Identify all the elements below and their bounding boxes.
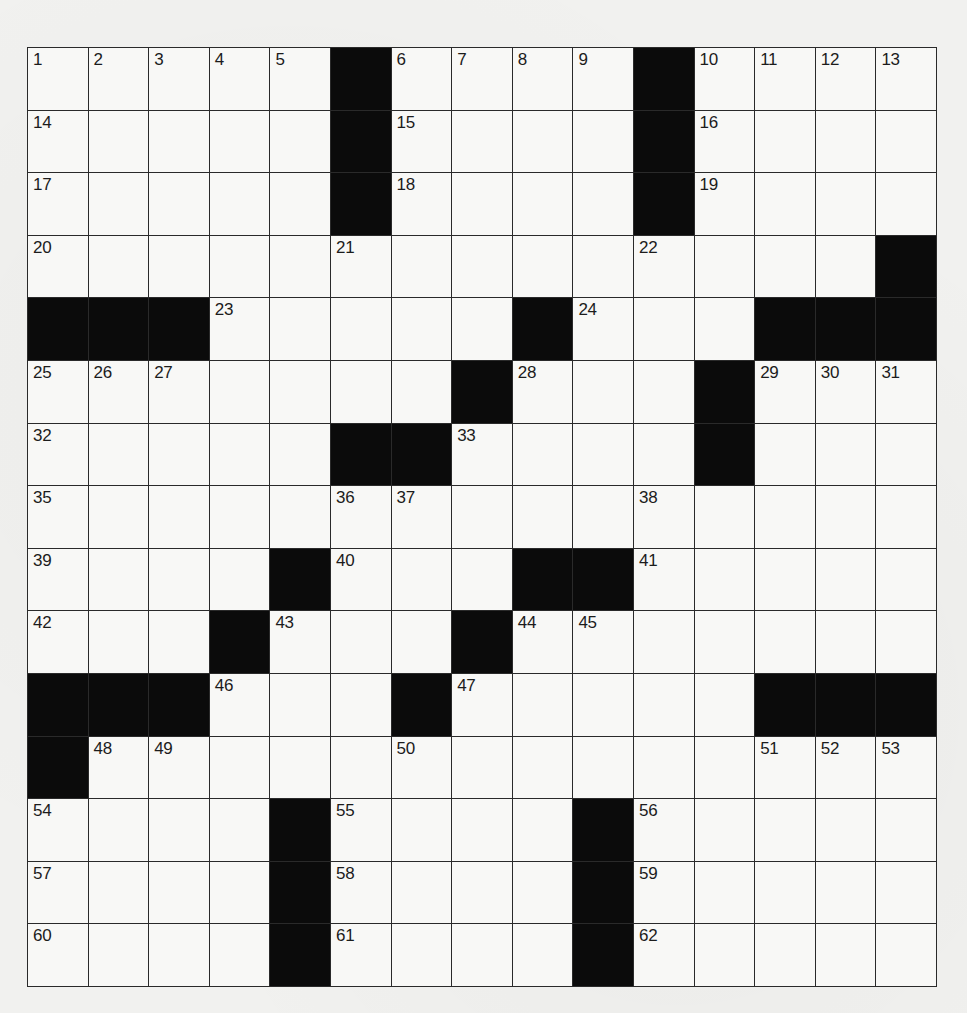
answer-cell[interactable]: 16: [695, 111, 755, 173]
answer-cell[interactable]: [755, 611, 815, 673]
answer-cell[interactable]: [89, 111, 149, 173]
answer-cell[interactable]: [573, 361, 633, 423]
answer-cell[interactable]: [452, 799, 512, 861]
answer-cell[interactable]: [210, 924, 270, 986]
answer-cell[interactable]: 18: [392, 173, 452, 235]
answer-cell[interactable]: [513, 924, 573, 986]
answer-cell[interactable]: [392, 799, 452, 861]
answer-cell[interactable]: 59: [634, 862, 694, 924]
answer-cell[interactable]: [573, 111, 633, 173]
answer-cell[interactable]: [331, 611, 391, 673]
answer-cell[interactable]: [513, 111, 573, 173]
answer-cell[interactable]: 56: [634, 799, 694, 861]
answer-cell[interactable]: [755, 236, 815, 298]
answer-cell[interactable]: [513, 236, 573, 298]
answer-cell[interactable]: [876, 486, 936, 548]
answer-cell[interactable]: 36: [331, 486, 391, 548]
answer-cell[interactable]: [755, 424, 815, 486]
answer-cell[interactable]: 57: [28, 862, 88, 924]
answer-cell[interactable]: [331, 674, 391, 736]
answer-cell[interactable]: [876, 924, 936, 986]
answer-cell[interactable]: [149, 862, 209, 924]
answer-cell[interactable]: [452, 173, 512, 235]
answer-cell[interactable]: 11: [755, 48, 815, 110]
answer-cell[interactable]: 37: [392, 486, 452, 548]
answer-cell[interactable]: [573, 674, 633, 736]
answer-cell[interactable]: [392, 924, 452, 986]
answer-cell[interactable]: [513, 737, 573, 799]
answer-cell[interactable]: [755, 924, 815, 986]
answer-cell[interactable]: [149, 111, 209, 173]
answer-cell[interactable]: [392, 361, 452, 423]
answer-cell[interactable]: [513, 674, 573, 736]
answer-cell[interactable]: [89, 611, 149, 673]
answer-cell[interactable]: [876, 799, 936, 861]
answer-cell[interactable]: [149, 173, 209, 235]
answer-cell[interactable]: [89, 173, 149, 235]
answer-cell[interactable]: [876, 111, 936, 173]
answer-cell[interactable]: [755, 862, 815, 924]
answer-cell[interactable]: [210, 737, 270, 799]
answer-cell[interactable]: [876, 173, 936, 235]
answer-cell[interactable]: 29: [755, 361, 815, 423]
answer-cell[interactable]: 49: [149, 737, 209, 799]
answer-cell[interactable]: [331, 298, 391, 360]
answer-cell[interactable]: [149, 611, 209, 673]
answer-cell[interactable]: [452, 549, 512, 611]
answer-cell[interactable]: [149, 924, 209, 986]
answer-cell[interactable]: [210, 236, 270, 298]
answer-cell[interactable]: [270, 298, 330, 360]
answer-cell[interactable]: 53: [876, 737, 936, 799]
answer-cell[interactable]: [573, 424, 633, 486]
answer-cell[interactable]: [392, 298, 452, 360]
answer-cell[interactable]: 38: [634, 486, 694, 548]
answer-cell[interactable]: [89, 799, 149, 861]
answer-cell[interactable]: [816, 424, 876, 486]
answer-cell[interactable]: [513, 424, 573, 486]
answer-cell[interactable]: 61: [331, 924, 391, 986]
answer-cell[interactable]: 20: [28, 236, 88, 298]
answer-cell[interactable]: [149, 424, 209, 486]
answer-cell[interactable]: [149, 549, 209, 611]
answer-cell[interactable]: 17: [28, 173, 88, 235]
answer-cell[interactable]: [452, 298, 512, 360]
answer-cell[interactable]: 40: [331, 549, 391, 611]
answer-cell[interactable]: [331, 737, 391, 799]
answer-cell[interactable]: [695, 549, 755, 611]
answer-cell[interactable]: [270, 111, 330, 173]
answer-cell[interactable]: 51: [755, 737, 815, 799]
answer-cell[interactable]: 19: [695, 173, 755, 235]
answer-cell[interactable]: [695, 862, 755, 924]
answer-cell[interactable]: 28: [513, 361, 573, 423]
answer-cell[interactable]: 33: [452, 424, 512, 486]
answer-cell[interactable]: [210, 111, 270, 173]
answer-cell[interactable]: 42: [28, 611, 88, 673]
answer-cell[interactable]: 55: [331, 799, 391, 861]
answer-cell[interactable]: [816, 486, 876, 548]
answer-cell[interactable]: 14: [28, 111, 88, 173]
answer-cell[interactable]: [634, 424, 694, 486]
answer-cell[interactable]: 50: [392, 737, 452, 799]
answer-cell[interactable]: 24: [573, 298, 633, 360]
answer-cell[interactable]: [816, 111, 876, 173]
answer-cell[interactable]: [634, 674, 694, 736]
answer-cell[interactable]: [210, 486, 270, 548]
answer-cell[interactable]: [695, 486, 755, 548]
answer-cell[interactable]: 41: [634, 549, 694, 611]
answer-cell[interactable]: 35: [28, 486, 88, 548]
answer-cell[interactable]: [755, 173, 815, 235]
answer-cell[interactable]: [89, 236, 149, 298]
answer-cell[interactable]: [149, 236, 209, 298]
answer-cell[interactable]: [210, 424, 270, 486]
answer-cell[interactable]: [452, 111, 512, 173]
answer-cell[interactable]: [816, 799, 876, 861]
answer-cell[interactable]: 30: [816, 361, 876, 423]
answer-cell[interactable]: [573, 737, 633, 799]
answer-cell[interactable]: [695, 674, 755, 736]
answer-cell[interactable]: 23: [210, 298, 270, 360]
answer-cell[interactable]: 43: [270, 611, 330, 673]
answer-cell[interactable]: [452, 236, 512, 298]
answer-cell[interactable]: 5: [270, 48, 330, 110]
answer-cell[interactable]: [270, 674, 330, 736]
answer-cell[interactable]: [695, 737, 755, 799]
